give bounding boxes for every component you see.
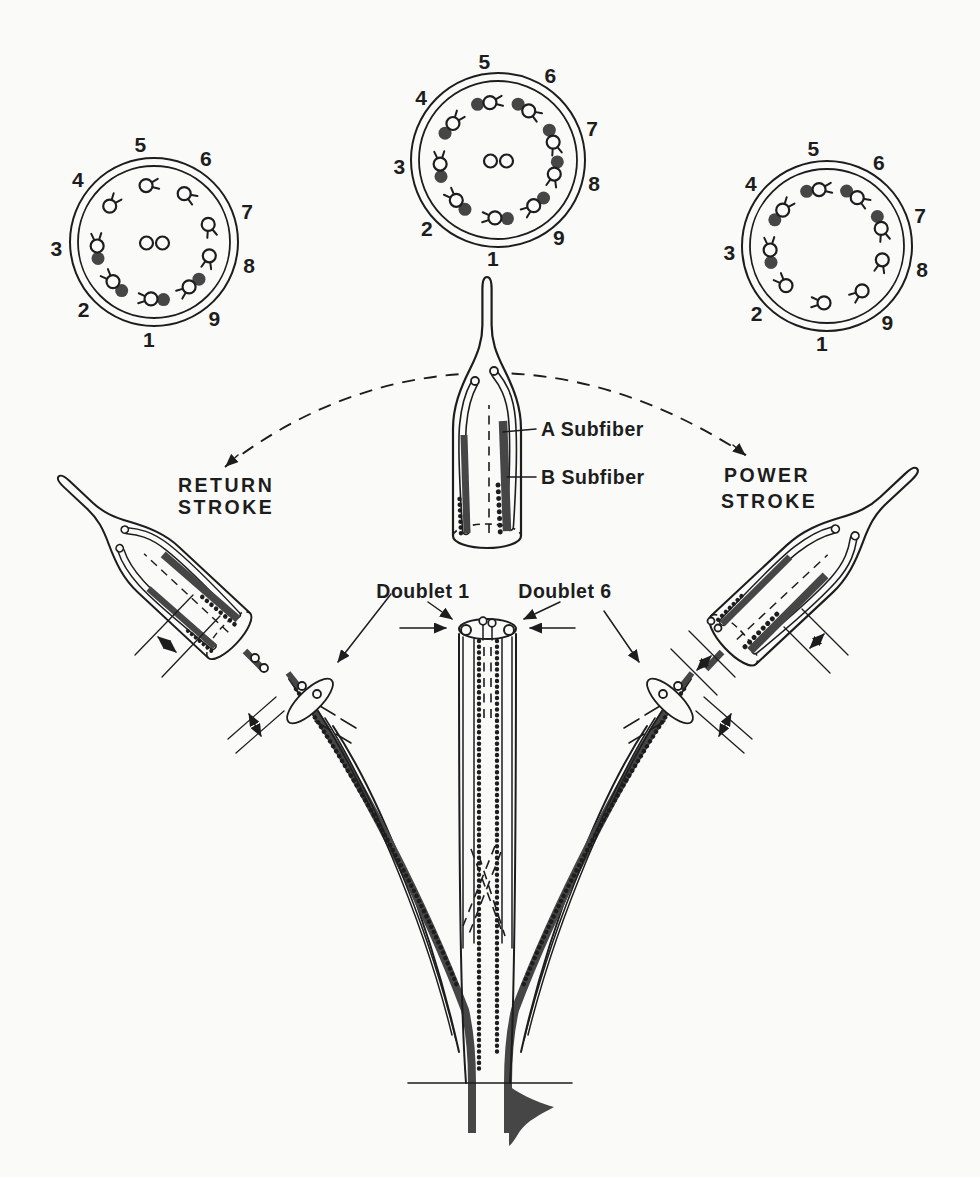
a-subfiber-section [856,284,869,297]
doublet-number: 1 [487,247,499,270]
a-subfiber-section [145,292,158,305]
b-subfiber-label: B Subfiber [541,466,645,488]
b-subfiber-section [800,185,813,198]
doublet-number: 4 [745,172,757,195]
a-subfiber-section [178,187,191,200]
a-subfiber-section [450,194,463,207]
central-pair-microtubule [484,155,497,168]
figure-flagellar-bending: 123456789 123456789 123456789 [0,0,980,1177]
doublet-number: 5 [135,133,147,156]
bent-axoneme-left-branch [281,672,472,1133]
doublet-number: 2 [78,298,90,321]
a-subfiber-section [91,239,104,252]
a-subfiber-section [488,211,501,224]
doublet-number: 9 [553,226,565,249]
a-subfiber-section [522,104,535,117]
b-subfiber-section [551,155,564,168]
doublet-1-diagonal-leader [428,602,452,619]
a-subfiber-section [202,218,215,231]
a-subfiber-section [813,183,826,196]
return-stroke-label-line2: STROKE [178,496,274,518]
bent-axoneme-right-branch [508,672,699,1133]
a-subfiber-section [776,204,789,217]
doublet-number: 9 [881,311,893,334]
power-tip-doublet-end-2 [715,625,722,632]
b-subfiber-section [765,256,778,269]
a-subfiber-section [183,280,196,293]
doublet-number: 6 [873,151,885,174]
a-subfiber-section [547,136,560,149]
doublet-number: 1 [143,328,155,351]
a-subfiber-section [876,253,889,266]
doublet-number: 8 [588,172,600,195]
left-branch-tube-line-2 [318,711,452,1035]
a-subfiber-section [140,179,153,192]
right-branch-doublet-end-2 [659,690,667,698]
a-subfiber-section [527,199,540,212]
right-branch-tube-line-2 [528,711,662,1035]
return-stroke-label-line1: RETURN [178,474,274,496]
a-subfiber-label: A Subfiber [541,418,644,440]
central-pair-end-1 [479,617,487,625]
a-subfiber-section [203,249,216,262]
doublet-number: 5 [808,137,820,160]
double-arrow [158,637,176,652]
arc-arrow-left [226,455,238,466]
double-arrow [249,714,261,736]
a-subfiber-section [875,222,888,235]
b-subfiber-section [157,293,170,306]
doublet-number: 8 [916,258,928,281]
central-pair-microtubule [140,237,153,250]
a-subfiber-section [106,275,119,288]
central-pair-microtubule [500,155,513,168]
a-subfiber-section [483,96,496,109]
a-subfiber-section [446,117,459,130]
central-pair-microtubule [156,237,169,250]
doublet-number: 2 [421,217,433,240]
left-branch-subfiber-bar [305,697,472,1133]
left-branch-outer-edge [289,679,456,988]
left-branch-doublet-end-2 [313,690,321,698]
a-subfiber-section [434,158,447,171]
doublet-number: 7 [586,117,598,140]
right-branch-subfiber-bar [508,697,675,1133]
arc-arrow-right [733,445,745,455]
pointer-arrow-right-branch-cut [604,611,639,662]
power-tip-protruding-subfiber [706,652,722,669]
a-subfiber-section [548,168,561,181]
a-subfiber-section [851,191,864,204]
a-subfiber-section [779,279,792,292]
doublet-6-end [504,625,514,635]
dimension-right-branch [696,697,752,753]
tick-lines [696,697,752,753]
flagellum-base-shaft [408,617,572,1146]
doublet-number: 3 [393,155,405,178]
doublet-number: 7 [241,200,253,223]
a-subfiber-section [103,200,116,213]
doublet-1-label: Doublet 1 [376,580,469,602]
power-stroke-label-line2: STROKE [721,490,817,512]
doublet-number: 8 [243,254,255,277]
tick-lines [228,697,284,753]
right-branch-doublet-end-1 [674,682,682,690]
doublet-number: 4 [415,86,427,109]
a-subfiber-section [764,243,777,256]
basal-fin [509,1086,554,1146]
a-subfiber-section [818,296,831,309]
b-subfiber-section [501,212,514,225]
b-subfiber-section [92,252,105,265]
doublet-1-end [461,625,471,635]
dimension-left-branch [228,697,284,753]
doublet-number: 7 [914,204,926,227]
doublet-number: 9 [208,307,220,330]
power-stroke-label-line1: POWER [724,464,810,486]
doublet-number: 1 [816,332,828,355]
doublet-6-label: Doublet 6 [518,580,611,602]
doublet-number: 3 [50,237,62,260]
central-pair-end-2 [488,619,496,627]
flagellar-tip-center [453,277,521,548]
cross-section-return: 123456789 [50,133,255,351]
left-branch-doublet-end-1 [298,682,306,690]
diagram-canvas: 123456789 123456789 123456789 [0,0,980,1177]
b-subfiber-section [435,170,448,183]
